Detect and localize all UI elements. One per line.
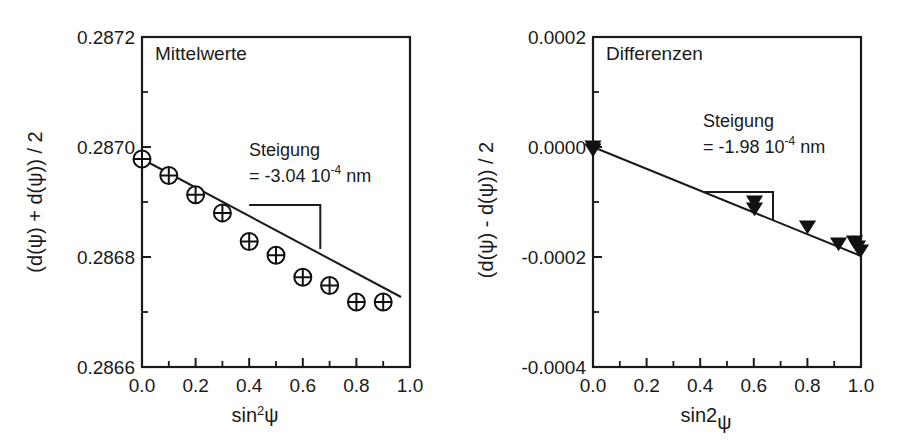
data-point bbox=[375, 294, 392, 311]
data-point bbox=[187, 186, 204, 203]
data-point bbox=[241, 233, 258, 250]
slope-annotation: Steigung = -1.98 10-4 nm bbox=[703, 111, 825, 157]
panel-title: Mittelwerte bbox=[155, 43, 247, 64]
x-tick-label: 0.0 bbox=[129, 375, 155, 396]
svg-text:sin2ψ: sin2ψ bbox=[681, 404, 732, 433]
x-axis-title: sin2ψ bbox=[681, 404, 732, 433]
x-axis-title-tail: ψ bbox=[264, 404, 278, 426]
regression-line bbox=[593, 147, 861, 256]
slope-indicator bbox=[249, 205, 320, 249]
data-series-differenzen bbox=[586, 141, 869, 257]
x-tick-label: 0.8 bbox=[794, 375, 820, 396]
svg-text:sin2ψ: sin2ψ bbox=[231, 403, 278, 426]
data-point bbox=[747, 203, 762, 215]
slope-annotation-line2: = -1.98 10-4 nm bbox=[703, 134, 825, 157]
x-tick-label: 0.2 bbox=[633, 375, 659, 396]
x-axis-title: sin2ψ bbox=[231, 403, 278, 426]
data-point bbox=[348, 294, 365, 311]
y-tick-label: -0.0004 bbox=[522, 357, 587, 378]
x-tick-label: 0.4 bbox=[687, 375, 714, 396]
slope-annotation-line1: Steigung bbox=[703, 111, 774, 131]
slope-annotation: Steigung = -3.04 10-4 nm bbox=[249, 140, 371, 186]
slope-annotation-unit: nm bbox=[341, 166, 371, 186]
slope-annotation-line1: Steigung bbox=[249, 140, 320, 160]
x-tick-label: 0.8 bbox=[343, 375, 369, 396]
data-point bbox=[268, 247, 285, 264]
x-tick-label: 0.2 bbox=[182, 375, 208, 396]
x-tick-label: 0.6 bbox=[290, 375, 316, 396]
data-point bbox=[160, 167, 177, 184]
slope-annotation-unit: nm bbox=[795, 137, 825, 157]
x-tick-label: 0.6 bbox=[741, 375, 767, 396]
y-axis-title: (d(ψ) - d(ψ)) / 2 bbox=[475, 142, 497, 278]
y-tick-label: 0.0002 bbox=[528, 27, 586, 48]
slope-annotation-exponent: -4 bbox=[785, 134, 796, 148]
chart-panel-mittelwerte: 0.2872 0.2870 0.2868 0.2866 0.0 0.2 0.4 … bbox=[0, 0, 455, 440]
y-axis-title: (d(ψ) + d(ψ)) / 2 bbox=[24, 131, 46, 272]
x-axis-title-main: sin2 bbox=[681, 404, 718, 426]
slope-annotation-value: = -1.98 10 bbox=[703, 137, 785, 157]
y-tick-label: 0.2872 bbox=[77, 27, 135, 48]
chart-panel-differenzen: 0.0002 0.0000 -0.0002 -0.0004 0.0 0.2 0.… bbox=[455, 0, 909, 440]
plot-frame bbox=[142, 37, 410, 367]
y-tick-label: -0.0002 bbox=[522, 247, 586, 268]
left-plot-svg: 0.2872 0.2870 0.2868 0.2866 0.0 0.2 0.4 … bbox=[0, 0, 455, 440]
x-tick-label: 1.0 bbox=[848, 375, 874, 396]
data-point bbox=[134, 151, 151, 168]
x-tick-label: 0.4 bbox=[236, 375, 263, 396]
data-point bbox=[853, 245, 868, 257]
y-tick-label: 0.2866 bbox=[77, 357, 135, 378]
x-axis-title-tail: ψ bbox=[717, 411, 731, 433]
y-tick-label: 0.2868 bbox=[77, 247, 135, 268]
y-tick-label: 0.2870 bbox=[77, 137, 135, 158]
right-plot-svg: 0.0002 0.0000 -0.0002 -0.0004 0.0 0.2 0.… bbox=[455, 0, 909, 440]
x-axis-title-sup: 2 bbox=[257, 403, 264, 418]
panel-title: Differenzen bbox=[606, 43, 703, 64]
slope-annotation-exponent: -4 bbox=[331, 163, 342, 177]
slope-annotation-value: = -3.04 10 bbox=[249, 166, 331, 186]
slope-annotation-line2: = -3.04 10-4 nm bbox=[249, 163, 371, 186]
x-tick-label: 0.0 bbox=[580, 375, 606, 396]
y-tick-label: 0.0000 bbox=[528, 137, 586, 158]
x-axis-title-main: sin bbox=[231, 404, 257, 426]
figure-container: 0.2872 0.2870 0.2868 0.2866 0.0 0.2 0.4 … bbox=[0, 0, 909, 440]
x-tick-label: 1.0 bbox=[397, 375, 423, 396]
data-point bbox=[321, 277, 338, 294]
data-point bbox=[214, 204, 231, 221]
data-point bbox=[294, 269, 311, 286]
